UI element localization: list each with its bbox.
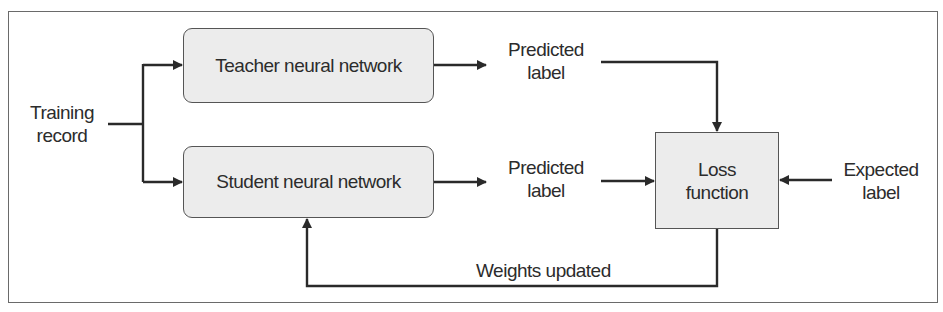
weights-updated-text: Weights updated: [476, 259, 611, 282]
connector-lines: [0, 0, 943, 312]
student-predicted-label: Predicted label: [494, 156, 598, 202]
student-network-label: Student neural network: [216, 171, 400, 193]
expected-label: Expected label: [834, 158, 928, 204]
arrow-teacher-pred-to-loss: [601, 62, 717, 131]
teacher-network-box: Teacher neural network: [183, 28, 434, 103]
teacher-predicted-line2: label: [494, 61, 598, 84]
training-record-label: Training record: [22, 101, 102, 147]
expected-label-line2: label: [834, 181, 928, 204]
weights-updated-label: Weights updated: [476, 259, 611, 282]
loss-function-box: Loss function: [655, 132, 779, 229]
student-predicted-line1: Predicted: [494, 156, 598, 179]
teacher-network-label: Teacher neural network: [215, 55, 402, 77]
teacher-predicted-label: Predicted label: [494, 38, 598, 84]
loss-function-line2: function: [686, 181, 749, 204]
teacher-predicted-line1: Predicted: [494, 38, 598, 61]
loss-function-line1: Loss: [698, 158, 736, 181]
expected-label-line1: Expected: [834, 158, 928, 181]
student-network-box: Student neural network: [183, 146, 434, 218]
training-record-line1: Training: [22, 101, 102, 124]
training-record-line2: record: [22, 124, 102, 147]
student-predicted-line2: label: [494, 179, 598, 202]
